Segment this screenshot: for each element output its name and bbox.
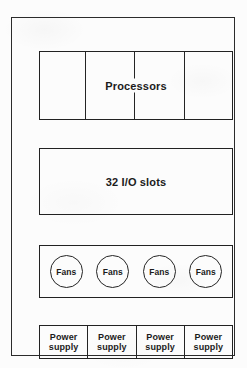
fans-module: Fans Fans Fans Fans [39, 245, 233, 298]
power-supply-unit-1-label: Power supply [49, 332, 79, 353]
power-supply-unit-3-label: Power supply [145, 332, 175, 353]
processors-label-text: Processors [101, 78, 170, 92]
power-supply-unit-3: Power supply [137, 326, 185, 358]
processors-divider-1 [85, 52, 86, 119]
power-supply-unit-1-line2: supply [49, 342, 79, 353]
fans-row: Fans Fans Fans Fans [40, 246, 232, 297]
power-supply-unit-2-line1: Power [98, 332, 126, 342]
power-supply-unit-1-line1: Power [50, 332, 78, 342]
power-supply-unit-2: Power supply [88, 326, 136, 358]
chassis-outline: Processors 32 I/O slots Fans Fans Fans F… [11, 17, 235, 356]
power-supply-unit-4-line2: supply [194, 342, 224, 353]
fan-unit-2: Fans [96, 255, 129, 288]
fan-unit-2-label: Fans [103, 267, 123, 277]
power-supplies-row: Power supply Power supply Power supply [40, 326, 232, 358]
power-supply-unit-3-line2: supply [145, 342, 175, 353]
io-slots-module: 32 I/O slots [39, 148, 233, 215]
power-supply-unit-3-line1: Power [146, 332, 174, 342]
fan-unit-3: Fans [143, 255, 176, 288]
chassis-block-diagram: Processors 32 I/O slots Fans Fans Fans F… [0, 0, 247, 368]
processors-divider-2 [134, 52, 135, 119]
processors-divider-3 [184, 52, 185, 119]
power-supply-unit-4: Power supply [185, 326, 232, 358]
fan-unit-3-label: Fans [149, 267, 169, 277]
processors-module: Processors [39, 51, 233, 120]
fan-unit-1: Fans [50, 255, 83, 288]
fan-unit-4: Fans [189, 255, 222, 288]
io-slots-label: 32 I/O slots [40, 176, 232, 188]
power-supplies-module: Power supply Power supply Power supply [39, 325, 233, 359]
power-supply-unit-2-label: Power supply [97, 332, 127, 353]
power-supply-unit-2-line2: supply [97, 342, 127, 353]
power-supply-unit-4-label: Power supply [194, 332, 224, 353]
fan-unit-4-label: Fans [196, 267, 216, 277]
power-supply-unit-1: Power supply [40, 326, 88, 358]
fan-unit-1-label: Fans [56, 267, 76, 277]
power-supply-unit-4-line1: Power [195, 332, 223, 342]
processors-label: Processors [40, 79, 232, 92]
